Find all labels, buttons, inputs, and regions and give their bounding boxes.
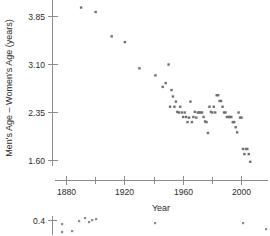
secondary-data-points-group — [61, 217, 267, 233]
secondary-partial-chart: 0.4 — [33, 216, 267, 236]
data-point — [138, 67, 140, 69]
data-point — [183, 111, 185, 113]
data-point — [201, 111, 203, 113]
data-point — [189, 100, 191, 102]
data-point — [214, 111, 216, 113]
secondary-y-tick-label-04: 0.4 — [33, 216, 45, 226]
secondary-data-point — [91, 219, 93, 221]
data-point — [195, 116, 197, 118]
data-point — [185, 116, 187, 118]
data-point — [181, 111, 183, 113]
data-point — [178, 111, 180, 113]
secondary-data-point — [61, 231, 63, 233]
data-point — [186, 121, 188, 123]
data-point — [217, 94, 219, 96]
y-tick-label-235: 2.35 — [28, 108, 45, 118]
data-point — [233, 121, 235, 123]
chart-canvas: 3.85 3.10 2.35 1.60 1880 1920 1960 2000 … — [0, 0, 270, 235]
x-tick-label-1920: 1920 — [115, 187, 134, 197]
secondary-data-point — [78, 220, 80, 222]
data-point — [230, 116, 232, 118]
data-point — [170, 89, 172, 91]
data-point — [211, 111, 213, 113]
data-point — [80, 6, 82, 8]
data-point — [172, 95, 174, 97]
data-point — [124, 41, 126, 43]
data-point — [191, 121, 193, 123]
secondary-data-point — [84, 217, 86, 219]
data-point — [243, 153, 245, 155]
y-axis-title: Men's Age – Women's Age (years) — [4, 19, 14, 156]
x-axis-ticks: 1880 1920 1960 2000 — [57, 176, 251, 197]
y-tick-label-310: 3.10 — [28, 60, 45, 70]
data-point — [249, 161, 251, 163]
data-point — [182, 116, 184, 118]
data-points-group — [80, 6, 252, 163]
data-point — [208, 106, 210, 108]
secondary-data-point — [88, 221, 90, 223]
secondary-data-point — [154, 222, 156, 224]
data-point — [205, 121, 207, 123]
data-point — [246, 148, 248, 150]
scatter-plot-figure: 3.85 3.10 2.35 1.60 1880 1920 1960 2000 … — [0, 0, 270, 235]
secondary-data-point — [95, 218, 97, 220]
x-tick-label-2000: 2000 — [232, 187, 251, 197]
data-point — [207, 132, 209, 134]
data-point — [179, 106, 181, 108]
data-point — [237, 111, 239, 113]
data-point — [202, 116, 204, 118]
data-point — [220, 100, 222, 102]
data-point — [236, 131, 238, 133]
data-point — [234, 126, 236, 128]
x-tick-label-1880: 1880 — [57, 187, 76, 197]
secondary-data-point — [242, 222, 244, 224]
x-tick-label-1960: 1960 — [174, 187, 193, 197]
data-point — [213, 106, 215, 108]
data-point — [248, 153, 250, 155]
data-point — [94, 11, 96, 13]
data-point — [242, 148, 244, 150]
data-point — [167, 63, 169, 65]
data-point — [162, 86, 164, 88]
data-point — [175, 100, 177, 102]
data-point — [188, 116, 190, 118]
data-point — [224, 111, 226, 113]
secondary-data-point — [61, 223, 63, 225]
secondary-data-point — [265, 228, 267, 230]
data-point — [173, 106, 175, 108]
data-point — [164, 82, 166, 84]
y-axis-ticks: 3.85 3.10 2.35 1.60 — [28, 12, 58, 166]
y-tick-label-385: 3.85 — [28, 12, 45, 22]
data-point — [192, 116, 194, 118]
data-point — [169, 106, 171, 108]
x-axis-title: Year — [152, 203, 170, 213]
y-tick-label-160: 1.60 — [28, 156, 45, 166]
data-point — [221, 106, 223, 108]
data-point — [111, 35, 113, 37]
secondary-data-point — [71, 230, 73, 232]
data-point — [154, 74, 156, 76]
data-point — [194, 111, 196, 113]
data-point — [240, 116, 242, 118]
